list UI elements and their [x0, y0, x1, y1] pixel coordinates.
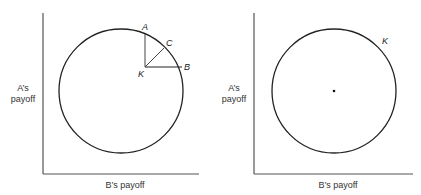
left-y-label-line2: payoff	[8, 94, 38, 105]
left-y-label: A’s payoff	[8, 83, 38, 105]
left-circle	[59, 29, 183, 153]
curve-label-K: K	[382, 36, 388, 46]
right-y-label: A’s payoff	[218, 83, 250, 105]
point-label-C: C	[166, 38, 173, 48]
segment-KC	[145, 48, 164, 67]
right-panel	[254, 13, 413, 174]
diagram-canvas	[0, 0, 421, 195]
right-x-label: B’s payoff	[303, 180, 373, 191]
point-label-A: A	[142, 22, 148, 32]
center-dot	[333, 90, 336, 93]
left-x-label: B’s payoff	[90, 180, 160, 191]
left-y-label-line1: A’s	[8, 83, 38, 94]
right-y-label-line2: payoff	[218, 94, 250, 105]
right-y-label-line1: A’s	[218, 83, 250, 94]
left-panel	[43, 13, 199, 174]
point-label-B: B	[184, 62, 190, 72]
point-label-K: K	[138, 69, 144, 79]
